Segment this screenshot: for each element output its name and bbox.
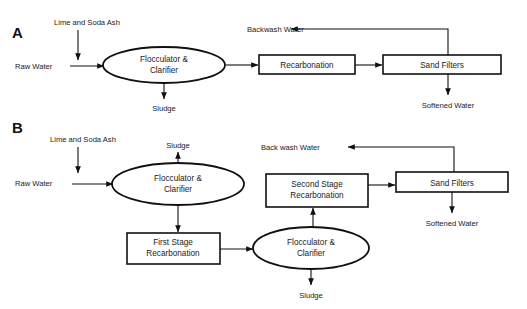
water-softening-flow-diagram: A Lime and Soda Ash Raw Water Flocculato…: [0, 0, 527, 309]
label-sludge-a: Sludge: [152, 104, 176, 113]
node-flocculator-clarifier-a-line1: Flocculator &: [140, 55, 188, 64]
node-sand-filters-b-label: Sand Filters: [430, 179, 474, 188]
label-softened-water-b: Softened Water: [426, 219, 479, 228]
label-raw-water-a: Raw Water: [15, 62, 53, 71]
node-sand-filters-a-label: Sand Filters: [420, 61, 464, 70]
node-second-stage-recarbonation-b-line2: Recarbonation: [290, 191, 344, 200]
panel-b: B Lime and Soda Ash Raw Water Flocculato…: [12, 119, 508, 300]
label-raw-water-b: Raw Water: [15, 179, 53, 188]
label-softened-water-a: Softened Water: [422, 101, 475, 110]
label-sludge-b-bottom: Sludge: [299, 291, 323, 300]
panel-a-letter: A: [12, 24, 23, 41]
node-second-stage-recarbonation-b-line1: Second Stage: [291, 180, 343, 189]
node-flocculator-clarifier-a-line2: Clarifier: [150, 66, 178, 75]
node-flocculator-clarifier-b2-line2: Clarifier: [297, 249, 325, 258]
node-flocculator-clarifier-b1: [112, 163, 244, 205]
arrow-sand-filters-to-back-wash-water-b: [348, 147, 454, 172]
label-backwash-water-a: Backwash Water: [247, 25, 304, 34]
label-back-wash-water-b: Back wash Water: [261, 143, 320, 152]
node-flocculator-clarifier-b1-line1: Flocculator &: [154, 174, 202, 183]
node-first-stage-recarbonation-b-line2: Recarbonation: [146, 249, 200, 258]
panel-a: A Lime and Soda Ash Raw Water Flocculato…: [12, 18, 501, 113]
label-sludge-b-top: Sludge: [166, 141, 190, 150]
node-flocculator-clarifier-b2: [253, 227, 369, 269]
panel-b-letter: B: [12, 119, 23, 136]
flow-diagram-canvas: A Lime and Soda Ash Raw Water Flocculato…: [0, 0, 527, 309]
arrow-sand-filters-to-backwash-water-a: [291, 29, 448, 55]
node-recarbonation-a-label: Recarbonation: [280, 61, 334, 70]
label-lime-and-soda-ash-a: Lime and Soda Ash: [54, 18, 120, 27]
node-flocculator-clarifier-b1-line2: Clarifier: [164, 185, 192, 194]
label-lime-and-soda-ash-b: Lime and Soda Ash: [50, 135, 116, 144]
node-first-stage-recarbonation-b-line1: First Stage: [153, 238, 193, 247]
node-flocculator-clarifier-a: [103, 47, 225, 83]
node-flocculator-clarifier-b2-line1: Flocculator &: [287, 238, 335, 247]
